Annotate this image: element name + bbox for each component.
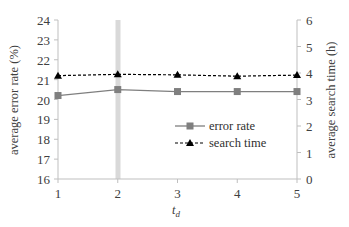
y-tick-label: 23: [37, 33, 50, 48]
y-tick-label: 21: [37, 73, 50, 88]
y2-axis-label: average search time (h): [324, 42, 338, 159]
data-point: [234, 88, 241, 95]
chart: 161718192021222324012345612345 average e…: [0, 0, 349, 227]
y-tick-label: 19: [37, 112, 50, 127]
x-tick-label: 4: [234, 186, 241, 201]
y-tick-label: 18: [37, 132, 50, 147]
y2-tick-label: 1: [306, 146, 313, 161]
data-point: [114, 86, 121, 93]
x-tick-label: 1: [55, 186, 62, 201]
y-tick-label: 22: [37, 53, 50, 68]
legend: error rate search time: [175, 119, 267, 150]
y2-tick-label: 2: [306, 119, 313, 134]
y2-tick-label: 6: [306, 13, 313, 28]
y-tick-label: 24: [37, 13, 51, 28]
data-point: [55, 92, 62, 99]
y-tick-label: 20: [37, 93, 50, 108]
series: [54, 70, 301, 99]
square-marker-icon: [187, 123, 194, 130]
legend-error-rate: error rate: [209, 119, 256, 133]
y-axis-label: average error rate (%): [7, 45, 21, 155]
legend-search-time: search time: [209, 136, 267, 150]
x-tick-label: 2: [115, 186, 122, 201]
x-tick-label: 5: [294, 186, 301, 201]
y2-tick-label: 4: [306, 66, 313, 81]
x-axis-label: td: [172, 203, 180, 219]
axes: 161718192021222324012345612345: [37, 13, 313, 201]
data-point: [174, 88, 181, 95]
y2-tick-label: 3: [306, 93, 313, 108]
x-tick-label: 3: [174, 186, 181, 201]
data-point: [294, 88, 301, 95]
y2-tick-label: 0: [306, 172, 313, 187]
y-tick-label: 16: [37, 172, 51, 187]
y2-tick-label: 5: [306, 40, 313, 55]
highlight-band: [116, 20, 121, 179]
y-tick-label: 17: [37, 152, 51, 167]
